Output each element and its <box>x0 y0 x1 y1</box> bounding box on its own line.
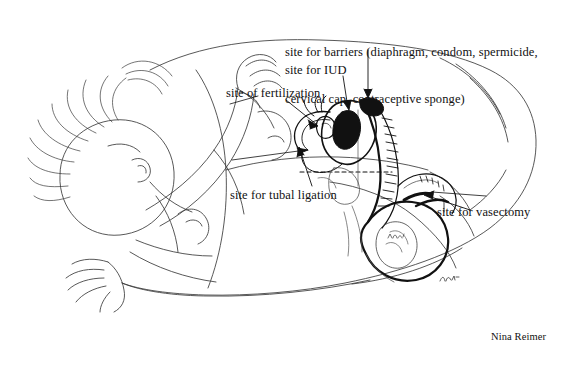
artist-credit: Nina Reimer <box>491 330 546 343</box>
illustration-figure: site for barriers (diaphragm, condom, sp… <box>0 0 584 367</box>
label-site-for-vasectomy: site for vasectomy <box>437 205 530 221</box>
label-site-of-fertilization: site of fertilization <box>226 86 320 102</box>
label-barriers-line2: cervical cap, contraceptive sponge) <box>285 92 538 108</box>
label-site-for-iud: site for IUD <box>285 63 347 79</box>
label-barriers-line1: site for barriers (diaphragm, condom, sp… <box>285 45 538 61</box>
label-site-for-tubal-ligation: site for tubal ligation <box>230 188 337 204</box>
